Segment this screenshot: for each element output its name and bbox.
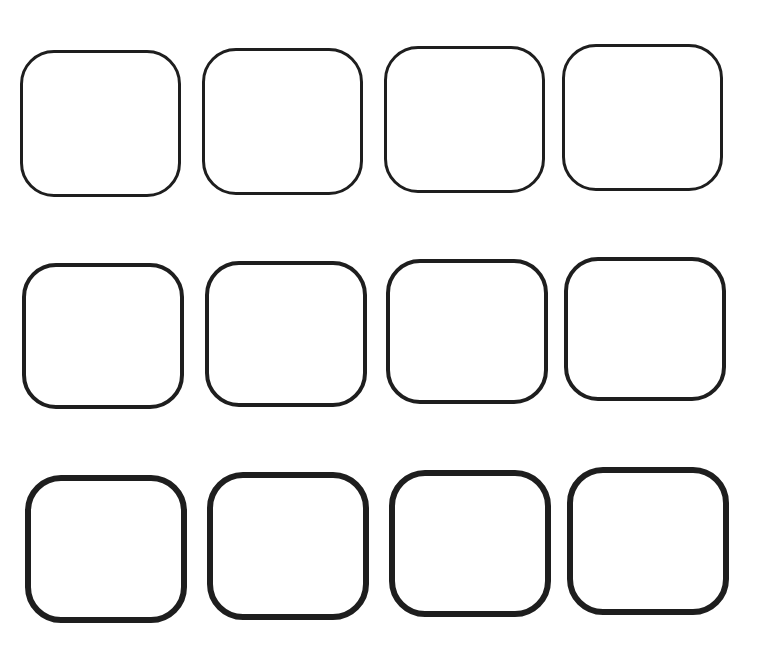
rounded-box xyxy=(384,46,545,193)
rounded-box xyxy=(389,470,551,617)
rounded-box xyxy=(22,263,184,409)
rounded-box xyxy=(25,475,187,623)
rounded-box xyxy=(386,259,548,404)
rounded-box xyxy=(564,257,726,401)
rounded-box-grid xyxy=(0,0,768,654)
rounded-box xyxy=(562,44,723,191)
rounded-box xyxy=(202,48,363,195)
rounded-box xyxy=(205,261,367,407)
rounded-box xyxy=(567,467,729,615)
rounded-box xyxy=(20,50,181,197)
rounded-box xyxy=(207,472,369,620)
